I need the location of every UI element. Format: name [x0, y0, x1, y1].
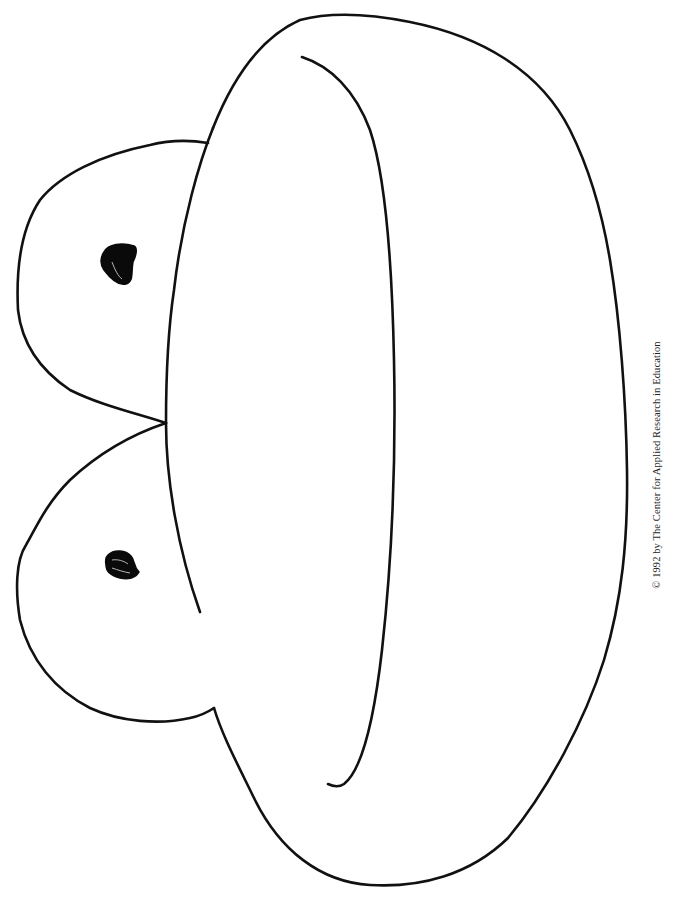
frog-drawing [0, 0, 673, 899]
frog-body-outline [213, 15, 627, 886]
frog-lower-pupil [106, 551, 139, 579]
frog-upper-pupil [101, 244, 136, 284]
copyright-notice: © 1992 by The Center for Applied Researc… [651, 341, 662, 588]
frog-upper-eye-bulge [18, 141, 208, 423]
frog-inner-curve [302, 57, 395, 786]
coloring-page: © 1992 by The Center for Applied Researc… [0, 0, 673, 899]
frog-body-left-edge [166, 128, 213, 612]
